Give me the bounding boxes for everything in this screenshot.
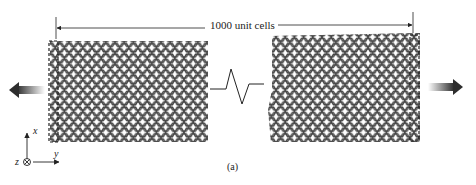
axis-y-label: y [54,148,58,159]
axis-x-label: x [33,125,37,136]
axis-z-label: z [15,156,19,167]
right-graphene-sheet [268,33,420,142]
panel-label: (a) [227,161,238,172]
into-page-icon [24,159,31,166]
right-pull-arrow [428,79,463,95]
dimension-label: 1000 unit cells [207,19,278,31]
left-pull-arrow [9,82,45,98]
break-symbol [210,69,264,104]
left-graphene-sheet [49,41,208,142]
